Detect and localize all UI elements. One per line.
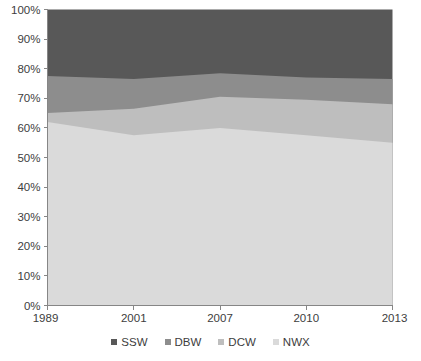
y-axis-tick-label: 90% (17, 33, 40, 45)
legend-item-nwx[interactable]: NWX (273, 336, 310, 348)
y-axis-tick-label: 100% (11, 4, 40, 16)
legend-item-label: NWX (283, 336, 310, 348)
y-axis-tick-label: 80% (17, 63, 40, 75)
x-axis-tick-label: 2013 (382, 312, 408, 324)
y-axis-tick-label: 10% (17, 270, 40, 282)
chart-canvas: 0%10%20%30%40%50%60%70%80%90%100% 198920… (0, 0, 421, 361)
y-axis-tick-label: 50% (17, 152, 40, 164)
chart-legend: SSWDBWDCWNWX (0, 336, 421, 348)
x-axis-tick-labels: 19892001200720102013 (33, 312, 408, 324)
x-axis-tick-label: 1989 (33, 312, 59, 324)
y-axis-tick-label: 60% (17, 122, 40, 134)
y-axis-tick-label: 0% (24, 300, 41, 312)
area-series-nwx (48, 122, 393, 306)
legend-item-dbw[interactable]: DBW (165, 336, 202, 348)
legend-swatch-icon (218, 339, 224, 345)
x-axis-tick-label: 2007 (207, 312, 233, 324)
y-axis-tick-label: 70% (17, 92, 40, 104)
y-axis-tick-label: 40% (17, 181, 40, 193)
y-axis-tick-label: 20% (17, 240, 40, 252)
legend-swatch-icon (165, 339, 171, 345)
stacked-area-chart: 0%10%20%30%40%50%60%70%80%90%100% 198920… (0, 0, 421, 361)
y-axis-tick-label: 30% (17, 211, 40, 223)
legend-item-label: SSW (121, 336, 147, 348)
x-axis-tick-label: 2010 (293, 312, 319, 324)
legend-item-dcw[interactable]: DCW (218, 336, 255, 348)
legend-item-label: DBW (175, 336, 202, 348)
legend-item-ssw[interactable]: SSW (111, 336, 147, 348)
legend-item-label: DCW (228, 336, 255, 348)
x-axis-tick-label: 2001 (121, 312, 147, 324)
y-axis-tick-labels: 0%10%20%30%40%50%60%70%80%90%100% (11, 4, 40, 312)
legend-swatch-icon (273, 339, 279, 345)
plot-series-group (48, 10, 393, 306)
legend-swatch-icon (111, 339, 117, 345)
